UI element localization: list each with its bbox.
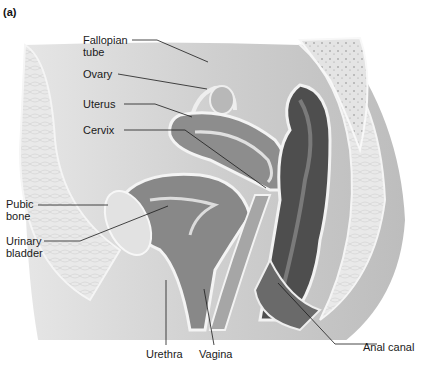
panel-label: (a) [3,6,16,18]
label-vagina: Vagina [199,348,232,360]
label-pubic-bone: Pubic bone [6,198,34,222]
pelvis-illustration [0,0,425,371]
label-fallopian-tube: Fallopian tube [83,34,128,58]
label-cervix: Cervix [83,124,114,136]
anatomy-figure: (a) Fallopian tube Ovary Uterus Cervix P… [0,0,425,371]
label-urethra: Urethra [146,348,183,360]
label-uterus: Uterus [83,98,115,110]
label-ovary: Ovary [83,68,112,80]
label-anal-canal: Anal canal [363,341,414,353]
label-urinary-bladder: Urinary bladder [6,235,43,259]
